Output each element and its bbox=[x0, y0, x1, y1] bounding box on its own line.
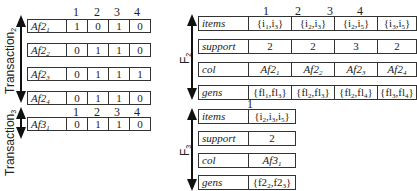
transaction2-row: Af22 0 1 1 0 bbox=[27, 43, 151, 57]
arrow-down-icon bbox=[16, 91, 26, 103]
bit-cell: 0 bbox=[67, 44, 88, 56]
column-header: 3 bbox=[107, 6, 127, 18]
bit-cell: 0 bbox=[67, 68, 88, 80]
f2-cell: {fl3,fl4} bbox=[378, 86, 416, 99]
row-label: support bbox=[199, 132, 249, 145]
f3-gens-row: gens {f22,f23} bbox=[198, 175, 296, 190]
f2-cell: {i2,i3} bbox=[292, 17, 335, 30]
bit-cell: 1 bbox=[109, 44, 130, 56]
bit-cell: 1 bbox=[67, 20, 88, 32]
row-label: col bbox=[199, 63, 249, 76]
bit-cell: 0 bbox=[88, 20, 109, 32]
transaction2-row: Af23 0 1 1 1 bbox=[27, 67, 151, 81]
bit-cell: 1 bbox=[109, 68, 130, 80]
f2-cell: Af21 bbox=[249, 63, 292, 76]
column-header: 4 bbox=[127, 6, 147, 18]
f3-support-row: support 2 bbox=[198, 131, 296, 146]
f2-items-row: items {i1,i3} {i2,i3} {i2,i5} {i3,i5} bbox=[198, 16, 417, 31]
row-label: Af23 bbox=[28, 68, 67, 80]
bit-cell: 1 bbox=[109, 118, 130, 130]
column-header: 2 bbox=[87, 6, 107, 18]
bit-cell: 1 bbox=[109, 20, 130, 32]
f3-axis-label: F3 bbox=[178, 145, 192, 156]
bit-cell: 0 bbox=[67, 118, 88, 130]
f3-col-row: col Af31 bbox=[198, 153, 296, 168]
transaction3-axis-label: Transaction3 bbox=[3, 110, 17, 176]
bit-cell: 1 bbox=[88, 68, 109, 80]
row-label: items bbox=[199, 17, 249, 30]
bit-cell: 0 bbox=[130, 44, 150, 56]
row-label: Af21 bbox=[28, 20, 67, 32]
f2-cell: Af24 bbox=[378, 63, 416, 76]
f2-cell: 3 bbox=[335, 40, 378, 53]
row-label: items bbox=[199, 110, 249, 123]
f3-cell: 2 bbox=[249, 132, 295, 145]
transaction3-row: Af31 0 1 1 0 bbox=[27, 117, 151, 131]
bit-cell: 1 bbox=[109, 92, 130, 104]
bit-cell: 0 bbox=[130, 20, 150, 32]
f2-support-row: support 2 2 3 2 bbox=[198, 39, 417, 54]
transaction2-row: Af24 0 1 1 0 bbox=[27, 91, 151, 105]
transaction2-row: Af21 1 0 1 0 bbox=[27, 19, 151, 33]
f3-cell: {f22,f23} bbox=[249, 176, 295, 189]
f2-cell: 2 bbox=[249, 40, 292, 53]
f2-col-row: col Af21 Af22 Af23 Af24 bbox=[198, 62, 417, 77]
row-label: col bbox=[199, 154, 249, 167]
f2-cell: {i1,i3} bbox=[249, 17, 292, 30]
transaction2-axis-label: Transaction2 bbox=[3, 28, 17, 94]
f3-items-row: items {i2,i3,i5} bbox=[198, 109, 296, 124]
f2-gens-row: gens {fl1,fl3} {fl2,fl3} {fl2,fl4} {fl3,… bbox=[198, 85, 417, 100]
f3-cell: Af31 bbox=[249, 154, 295, 167]
arrow-down-icon bbox=[187, 179, 197, 191]
bit-cell: 0 bbox=[67, 92, 88, 104]
arrow-shaft bbox=[191, 119, 193, 181]
bit-cell: 0 bbox=[130, 92, 150, 104]
f2-cell: {i3,i5} bbox=[378, 17, 416, 30]
f2-cell: Af22 bbox=[292, 63, 335, 76]
bit-cell: 1 bbox=[88, 118, 109, 130]
row-label: gens bbox=[199, 176, 249, 189]
arrow-down-icon bbox=[187, 88, 197, 100]
row-label: Af22 bbox=[28, 44, 67, 56]
f2-cell: Af23 bbox=[335, 63, 378, 76]
row-label: support bbox=[199, 40, 249, 53]
arrow-shaft bbox=[20, 26, 22, 92]
bit-cell: 1 bbox=[88, 44, 109, 56]
bit-cell: 1 bbox=[88, 92, 109, 104]
arrow-shaft bbox=[191, 25, 193, 89]
f2-cell: {fl2,fl4} bbox=[335, 86, 378, 99]
column-header: 1 bbox=[66, 6, 86, 18]
row-label: Af24 bbox=[28, 92, 67, 104]
f2-cell: 2 bbox=[292, 40, 335, 53]
f2-axis-label: F2 bbox=[178, 53, 192, 64]
f2-cell: {fl2,fl3} bbox=[292, 86, 335, 99]
f3-cell: {i2,i3,i5} bbox=[249, 110, 295, 123]
f2-cell: {i2,i5} bbox=[335, 17, 378, 30]
bit-cell: 0 bbox=[130, 118, 150, 130]
f2-cell: 2 bbox=[378, 40, 416, 53]
row-label: Af31 bbox=[28, 118, 67, 130]
arrow-down-icon bbox=[16, 127, 26, 139]
bit-cell: 1 bbox=[130, 68, 150, 80]
